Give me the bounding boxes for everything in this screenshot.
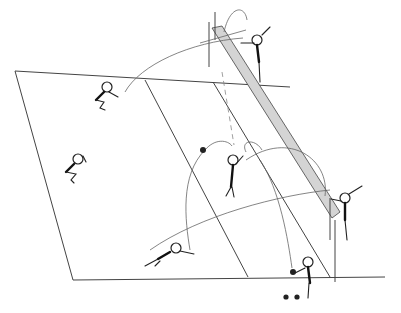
- net: [200, 12, 340, 282]
- player-diving-defender: [145, 243, 194, 266]
- player-setter: [226, 155, 243, 197]
- court-drawing: [0, 0, 401, 313]
- volleyball-diagram: [0, 0, 401, 313]
- balls: [200, 147, 296, 275]
- markers: [283, 294, 299, 299]
- player-left: [66, 154, 86, 183]
- player-back-left: [96, 82, 118, 110]
- court-outline: [15, 71, 385, 280]
